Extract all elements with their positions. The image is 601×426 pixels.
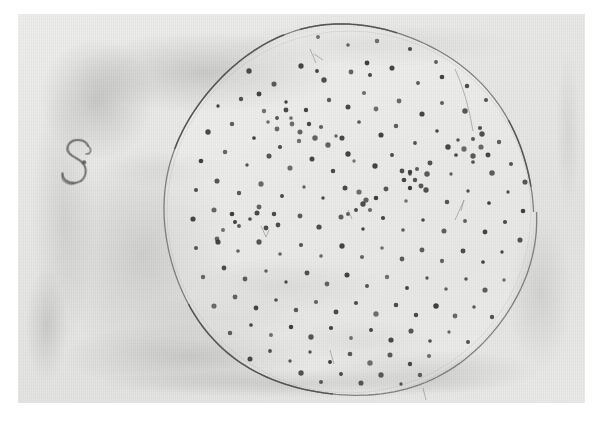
colony-dot	[394, 124, 399, 129]
colony-dot	[478, 126, 482, 130]
colony-dot	[246, 68, 251, 73]
colony-dot	[271, 81, 276, 86]
colony-dot	[289, 116, 293, 120]
colony-dot	[454, 153, 458, 157]
colony-dot	[419, 184, 424, 189]
colony-dot	[319, 254, 323, 258]
colony-dot	[239, 97, 243, 101]
colony-dot	[428, 161, 433, 166]
colony-dot	[256, 239, 261, 244]
colony-dot	[328, 360, 332, 364]
colony-dot	[190, 216, 195, 221]
colony-dot	[367, 360, 372, 365]
colony-dot	[331, 169, 336, 174]
colony-dot	[481, 260, 485, 264]
colony-dot	[266, 153, 271, 158]
colony-dot	[321, 196, 324, 199]
colony-dot	[421, 218, 425, 222]
colony-dot	[471, 160, 475, 164]
colony-dot	[489, 170, 494, 175]
colony-dot	[194, 246, 198, 250]
colony-dot	[408, 172, 412, 176]
screenshot-root	[0, 0, 601, 426]
colony-dot	[329, 326, 333, 330]
colony-dot	[222, 266, 227, 271]
colony-dot	[280, 194, 284, 198]
colony-dot	[269, 333, 273, 337]
colony-dot	[339, 372, 343, 376]
colony-dot	[201, 275, 205, 279]
colony-dot	[309, 156, 314, 161]
colony-dot	[466, 189, 469, 192]
colony-dot	[215, 239, 220, 244]
colony-dot	[205, 129, 210, 134]
colony-dot	[440, 259, 444, 263]
colony-dot	[334, 310, 339, 315]
photographic-print	[18, 14, 585, 403]
colony-dot	[338, 214, 343, 219]
colony-dot	[368, 208, 372, 212]
colony-dot	[440, 75, 445, 80]
colony-dot	[401, 228, 405, 232]
colony-dot	[456, 138, 459, 141]
colony-dot	[362, 91, 366, 95]
colony-dot	[445, 200, 450, 205]
colony-dot	[245, 163, 248, 166]
colony-dot	[194, 188, 198, 192]
colony-dot	[365, 284, 369, 288]
colony-dot	[402, 178, 407, 183]
colony-dot	[441, 228, 446, 233]
colony-dot	[298, 214, 303, 219]
colony-dot	[374, 107, 379, 112]
colony-dot	[461, 146, 466, 151]
colony-dot	[517, 237, 522, 242]
colony-dot	[221, 228, 225, 232]
colony-dot	[434, 60, 438, 64]
colony-dot	[345, 151, 350, 156]
colony-dot	[522, 179, 527, 184]
colony-dot	[360, 201, 365, 206]
colony-dot	[339, 135, 344, 140]
colony-dot	[427, 354, 431, 358]
colony-dot	[372, 163, 377, 168]
colony-dot	[387, 352, 392, 357]
colony-dot	[252, 136, 256, 140]
colony-dot	[287, 165, 292, 170]
colony-dot	[358, 380, 363, 385]
colony-dot	[233, 220, 237, 224]
colony-dot	[416, 81, 420, 85]
colony-dot	[316, 224, 321, 229]
colony-dot	[503, 220, 507, 224]
colony-dot	[233, 295, 238, 300]
colony-dot	[228, 331, 233, 336]
colony-dot	[423, 187, 428, 192]
colony-dot	[483, 230, 488, 235]
colony-dot	[275, 127, 280, 132]
colony-dot	[509, 162, 513, 166]
colony-dot	[257, 92, 262, 97]
colony-dot	[248, 217, 252, 221]
colony-dot	[243, 277, 248, 282]
colony-dot	[272, 212, 277, 217]
colony-dot	[319, 125, 323, 129]
colony-dot	[334, 134, 337, 137]
colony-dot	[369, 328, 373, 332]
colony-dot	[428, 339, 432, 343]
colony-dot	[397, 99, 402, 104]
colony-dot	[290, 122, 295, 127]
colony-dot	[321, 77, 326, 82]
colony-dot	[294, 308, 299, 313]
colony-dot	[266, 120, 270, 124]
colony-dot	[375, 39, 380, 44]
colony-dot	[308, 334, 313, 339]
colony-dot	[254, 306, 259, 311]
colony-dot	[211, 303, 216, 308]
colony-dot	[365, 61, 370, 66]
colony-dot	[288, 359, 291, 362]
colony-dot	[484, 98, 488, 102]
colony-dot	[339, 243, 344, 248]
colony-dot	[264, 269, 268, 273]
colony-dot	[424, 171, 430, 177]
colony-dot	[400, 169, 405, 174]
colony-dot	[298, 370, 303, 375]
